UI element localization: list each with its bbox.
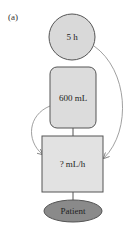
- iv-rate-diagram: (a) 5 h 600 mL ? mL/h Patient: [0, 0, 130, 227]
- patient-label: Patient: [61, 206, 86, 216]
- duration-node: 5 h: [49, 14, 95, 60]
- rate-node: ? mL/h: [42, 136, 103, 192]
- panel-label: (a): [8, 12, 18, 22]
- rate-label: ? mL/h: [60, 159, 86, 169]
- volume-label: 600 mL: [59, 93, 87, 103]
- volume-node: 600 mL: [50, 67, 96, 128]
- patient-node: Patient: [44, 200, 102, 222]
- duration-label: 5 h: [66, 32, 78, 42]
